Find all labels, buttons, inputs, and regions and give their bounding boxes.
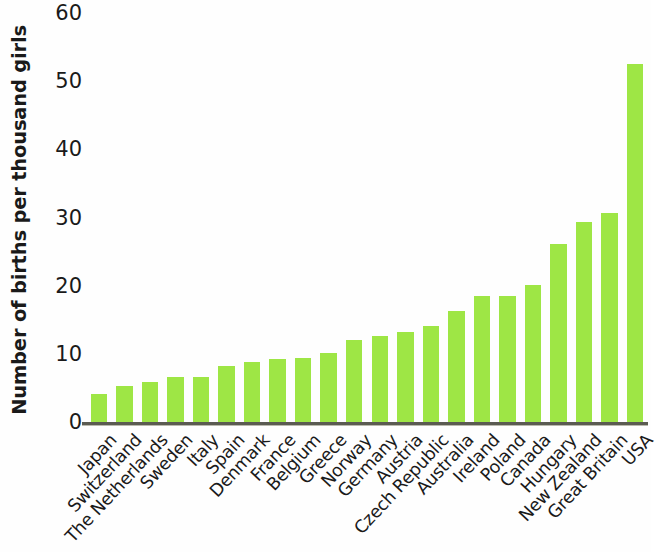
y-tick-label: 40 [36, 139, 82, 160]
y-axis-tick-labels: 0102030405060 [30, 0, 82, 440]
y-tick-label: 60 [36, 3, 82, 24]
y-tick-label: 50 [36, 71, 82, 92]
y-tick-label: 20 [36, 276, 82, 297]
y-tick-label: 0 [36, 412, 82, 433]
bar [627, 64, 643, 423]
y-tick-label: 10 [36, 344, 82, 365]
plot-area [86, 8, 648, 423]
y-tick-label: 30 [36, 208, 82, 229]
bar [91, 394, 107, 423]
